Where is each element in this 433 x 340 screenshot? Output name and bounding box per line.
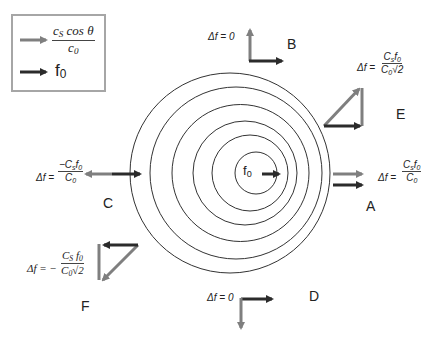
wavefront-circle — [150, 87, 322, 259]
observer-c-label: C — [103, 195, 113, 211]
observer-e-label: E — [396, 106, 405, 122]
legend-item-source-frequency-label: f0 — [55, 61, 66, 81]
observer-d-label: D — [309, 288, 319, 304]
wavefronts — [130, 73, 330, 273]
observer-f-gray-arrow — [103, 245, 138, 280]
observer-a-equation-fraction: Csf0 C0 — [402, 160, 421, 185]
observer-b-equation: Δf = 0 — [208, 31, 234, 42]
observer-e-equation-fraction: Csf0 C0√2 — [381, 52, 403, 77]
legend-item-observed-velocity-label: cS cos θ c0 — [52, 24, 95, 56]
observer-f-equation-fraction: CS f0 C0√2 — [61, 250, 84, 279]
observer-c-equation-prefix: Δf = — [36, 172, 54, 183]
observer-f-equation-prefix: Δf = − — [27, 262, 57, 274]
observer-b-label: B — [287, 36, 296, 52]
observer-e-gray-arrow — [324, 89, 359, 126]
observer-e-equation-prefix: Δf = — [357, 62, 375, 73]
doppler-diagram: cS cos θ c0 f0 f0 Δf = 0 B Δf = Csf0 C0√… — [0, 0, 433, 340]
observer-f-label: F — [81, 298, 90, 314]
observer-c-equation-fraction: −Csf0 C0 — [58, 160, 83, 185]
wavefront-circle — [130, 73, 330, 273]
source-label: f0 — [243, 163, 252, 179]
observer-d-equation: Δf = 0 — [207, 292, 233, 303]
observer-a-equation-prefix: Δf = — [378, 172, 396, 183]
observer-a-label: A — [366, 198, 375, 214]
